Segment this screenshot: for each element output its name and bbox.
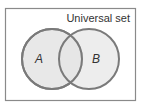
universal-set-label: Universal set — [66, 12, 130, 24]
set-b-label: B — [92, 52, 100, 66]
venn-diagram: Universal set A B — [0, 0, 143, 109]
set-b-circle — [59, 29, 119, 89]
set-a-label: A — [34, 52, 43, 66]
